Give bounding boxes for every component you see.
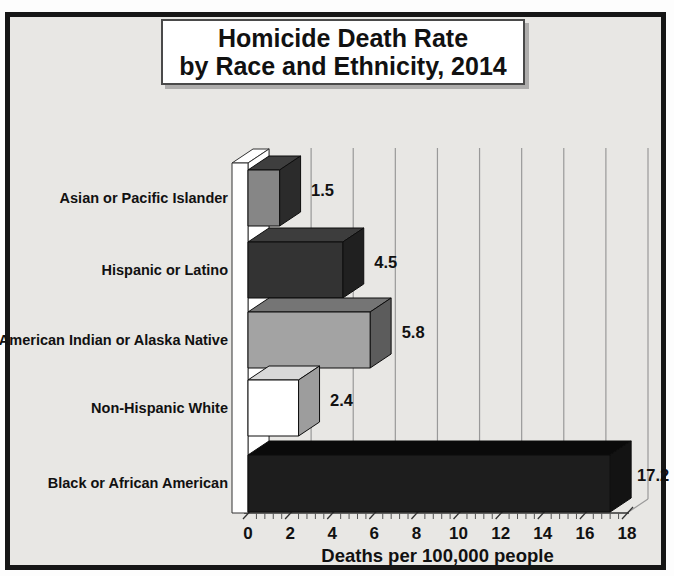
wall-front-face bbox=[232, 163, 248, 513]
category-label: Asian or Pacific Islander bbox=[60, 190, 229, 206]
bar-hispanic-or-latino bbox=[248, 242, 343, 298]
chart-title-box: Homicide Death Rate by Race and Ethnicit… bbox=[161, 19, 525, 85]
bar-top-american-indian-or-alaska-native bbox=[248, 298, 391, 312]
x-tick-label: 12 bbox=[491, 524, 510, 543]
value-label: 5.8 bbox=[402, 323, 425, 341]
x-tick-label: 10 bbox=[449, 524, 468, 543]
x-tick-label: 14 bbox=[533, 524, 552, 543]
chart-canvas: 1.5Asian or Pacific Islander4.5Hispanic … bbox=[0, 0, 674, 576]
x-tick-label: 6 bbox=[370, 524, 379, 543]
category-label: American Indian or Alaska Native bbox=[0, 332, 228, 348]
bar-asian-or-pacific-islander bbox=[248, 170, 280, 226]
value-label: 2.4 bbox=[330, 391, 354, 409]
x-tick-label: 16 bbox=[575, 524, 594, 543]
bar-non-hispanic-white bbox=[248, 380, 299, 436]
x-tick-label: 18 bbox=[618, 524, 637, 543]
x-tick-label: 4 bbox=[327, 524, 337, 543]
category-label: Black or African American bbox=[48, 475, 228, 491]
value-label: 4.5 bbox=[374, 253, 397, 271]
value-label: 1.5 bbox=[311, 181, 334, 199]
x-tick-label: 0 bbox=[243, 524, 252, 543]
bar-top-black-or-african-american bbox=[248, 441, 631, 455]
value-label: 17.2 bbox=[637, 466, 669, 484]
bar-black-or-african-american bbox=[248, 455, 610, 512]
x-tick-label: 8 bbox=[412, 524, 421, 543]
bar-american-indian-or-alaska-native bbox=[248, 312, 370, 368]
category-label: Hispanic or Latino bbox=[102, 262, 229, 278]
category-label: Non-Hispanic White bbox=[91, 400, 228, 416]
chart-title-line1: Homicide Death Rate bbox=[218, 24, 468, 52]
chart-figure: 1.5Asian or Pacific Islander4.5Hispanic … bbox=[0, 0, 674, 576]
x-tick-label: 2 bbox=[285, 524, 294, 543]
chart-title-line2: by Race and Ethnicity, 2014 bbox=[179, 52, 506, 80]
x-axis-title: Deaths per 100,000 people bbox=[321, 545, 553, 566]
